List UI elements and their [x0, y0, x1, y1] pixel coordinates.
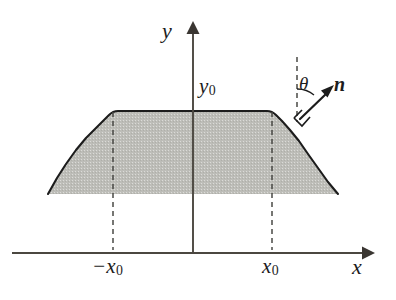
- figure-canvas: y y0 x x0 −x0 θ n: [0, 0, 396, 300]
- x0-label-subscript: 0: [271, 263, 278, 278]
- theta-label: θ: [299, 74, 308, 93]
- neg-x0-label-base: x: [106, 254, 115, 278]
- x-axis-label: x: [352, 256, 362, 278]
- y0-label: y0: [199, 76, 216, 98]
- normal-vector-label: n: [334, 74, 345, 94]
- x-axis-arrowhead: [362, 247, 375, 260]
- y-axis-label: y: [162, 20, 172, 42]
- y-axis-arrowhead: [187, 21, 200, 34]
- y0-label-base: y: [199, 74, 208, 98]
- diagram-svg: [0, 0, 396, 300]
- neg-x0-label: −x0: [92, 256, 123, 278]
- x0-label: x0: [262, 256, 279, 278]
- x0-label-base: x: [262, 254, 271, 278]
- neg-x0-label-subscript: 0: [116, 263, 123, 278]
- y0-label-subscript: 0: [208, 83, 215, 98]
- neg-x0-label-sign: −: [92, 254, 106, 278]
- normal-vector-shaft: [300, 93, 327, 119]
